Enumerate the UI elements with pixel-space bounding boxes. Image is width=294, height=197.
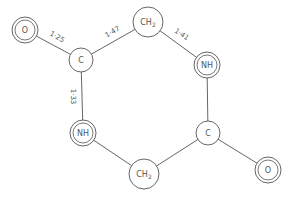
atom-c2: C	[196, 121, 220, 145]
atom-symbol: CH	[136, 170, 148, 179]
atom-symbol: O	[22, 26, 28, 35]
atom-symbol: C	[205, 129, 211, 138]
atom-nh1: NH	[194, 52, 220, 78]
atom-o1: O	[12, 17, 38, 43]
atom-label: O	[265, 166, 271, 175]
bond-length-label: 1·33	[69, 89, 77, 105]
atom-symbol: NH	[201, 61, 213, 70]
atom-symbol: NH	[77, 129, 89, 138]
atom-label: NH	[201, 61, 213, 70]
atom-subscript: 2	[152, 21, 156, 28]
bond-length-label: 1·25	[48, 30, 66, 45]
bonds-layer	[25, 22, 268, 174]
atom-ch2b: CH2	[129, 159, 159, 189]
bond-length-label: 1·41	[173, 27, 190, 42]
atom-o2: O	[255, 157, 281, 183]
atom-label: C	[205, 129, 211, 138]
atom-symbol: C	[78, 56, 84, 65]
atom-ch2a: CH2	[133, 7, 163, 37]
molecule-diagram: 1·251·471·411·33 OCCH2NHCOCH2NH	[0, 0, 294, 197]
atom-symbol: O	[265, 166, 271, 175]
atom-label: C	[78, 56, 84, 65]
atom-c1: C	[69, 48, 93, 72]
bond-length-label: 1·47	[104, 25, 122, 40]
atom-symbol: CH	[140, 18, 152, 27]
atom-label: O	[22, 26, 28, 35]
atom-label: NH	[77, 129, 89, 138]
atom-subscript: 2	[148, 173, 152, 180]
atom-nh2: NH	[70, 120, 96, 146]
